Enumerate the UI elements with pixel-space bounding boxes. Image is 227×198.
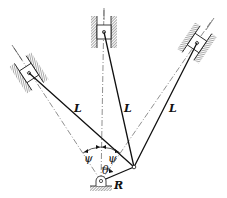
- rod-center: [104, 32, 134, 167]
- crank-pin: [132, 165, 136, 169]
- label-rod-center: L: [123, 102, 132, 115]
- label-theta: θ: [102, 164, 109, 177]
- label-psi-left: ψ: [84, 152, 93, 165]
- label-psi-right: ψ: [108, 152, 117, 165]
- rod-left: [29, 73, 134, 167]
- label-rod-left: L: [73, 102, 82, 115]
- label-radius: R: [113, 179, 123, 192]
- label-rod-right: L: [168, 102, 177, 115]
- connecting-rods: [29, 32, 197, 167]
- rod-right: [134, 43, 197, 167]
- mechanism-diagram: L L L ψ ψ θ R: [0, 0, 227, 198]
